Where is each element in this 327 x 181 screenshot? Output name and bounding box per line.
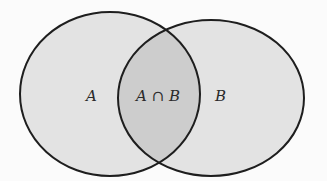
- venn-svg: A A ∩ B B: [0, 0, 327, 181]
- venn-diagram: A A ∩ B B: [0, 0, 327, 181]
- set-b-label: B: [214, 87, 226, 105]
- intersection-label: A ∩ B: [134, 87, 180, 105]
- set-a-label: A: [84, 87, 97, 105]
